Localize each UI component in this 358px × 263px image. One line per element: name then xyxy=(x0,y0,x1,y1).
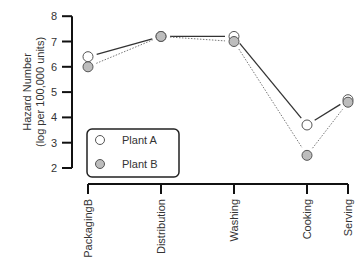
x-tick-label: Serving xyxy=(342,199,354,236)
x-tick-label: Washing xyxy=(228,199,240,241)
plant-b-marker xyxy=(343,97,353,107)
plant-b-line-segment xyxy=(239,49,302,148)
legend-marker-plant-a-icon xyxy=(96,136,105,145)
y-tick-label: 4 xyxy=(51,111,57,123)
plant-b-marker xyxy=(156,31,166,41)
legend: Plant A Plant B xyxy=(87,129,179,177)
plant-b-marker xyxy=(229,37,239,47)
plant-b-line-segment xyxy=(312,109,342,148)
legend-label-plant-a: Plant A xyxy=(122,134,158,146)
x-axis: PackagingBDistributionWashingCookingServ… xyxy=(82,184,354,258)
y-tick-label: 8 xyxy=(51,10,57,22)
legend-label-plant-b: Plant B xyxy=(122,158,157,170)
plant-a-marker xyxy=(83,52,93,62)
plant-a-line-segment xyxy=(315,104,341,120)
hazard-line-chart: 2345678 PackagingBDistributionWashingCoo… xyxy=(0,0,358,263)
y-tick-label: 6 xyxy=(51,61,57,73)
plant-b-marker xyxy=(302,150,312,160)
legend-marker-plant-b-icon xyxy=(96,160,105,169)
y-axis-title-line2: (log per 100,000 units) xyxy=(34,37,46,147)
y-tick-label: 7 xyxy=(51,36,57,48)
y-tick-label: 3 xyxy=(51,137,57,149)
y-axis: 2345678 xyxy=(51,10,72,174)
plant-b-line-segment xyxy=(170,37,225,41)
plant-b-marker xyxy=(83,62,93,72)
x-tick-label: Distribution xyxy=(155,199,167,254)
x-tick-label: Cooking xyxy=(301,199,313,239)
y-axis-title: Hazard Number (log per 100,000 units) xyxy=(21,37,46,147)
plant-a-line-segment xyxy=(240,43,302,118)
plant-a-marker xyxy=(302,120,312,130)
y-tick-label: 5 xyxy=(51,86,57,98)
x-tick-label: PackagingB xyxy=(82,199,94,258)
y-axis-title-line1: Hazard Number xyxy=(21,53,33,131)
y-tick-label: 2 xyxy=(51,162,57,174)
